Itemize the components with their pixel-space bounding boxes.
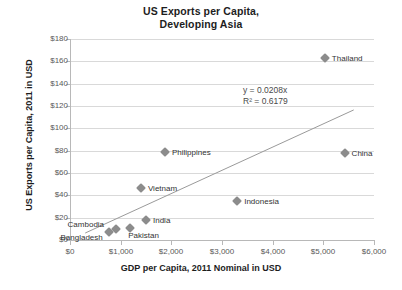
data-point-label-china: China [352, 149, 373, 158]
x-tick-label: $2,000 [159, 248, 183, 256]
x-tick-label: $5,000 [311, 248, 335, 256]
data-point-label-vietnam: Vietnam [148, 184, 177, 193]
x-tick-mark [222, 241, 223, 245]
trendline-r-squared: R² = 0.6179 [243, 96, 288, 107]
gridline-horizontal [70, 128, 374, 129]
x-tick-label: $4,000 [261, 248, 285, 256]
y-tick-label: $180 [50, 35, 68, 43]
data-point-label-india: India [153, 216, 170, 225]
data-point-label-bangladesh: Bangladesh [61, 233, 103, 242]
y-tick-label: $100 [50, 124, 68, 132]
gridline-horizontal [70, 173, 374, 174]
trendline-svg [0, 0, 402, 290]
x-axis-title: GDP per Capita, 2011 Nominal in USD [0, 263, 402, 273]
y-tick-label: $20 [55, 214, 68, 222]
x-tick-mark [121, 241, 122, 245]
data-point-vietnam [136, 183, 146, 193]
x-tick-mark [323, 241, 324, 245]
gridline-horizontal [70, 195, 374, 196]
trendline-equation: y = 0.0208x [243, 85, 287, 96]
data-point-china [340, 148, 350, 158]
gridline-horizontal [70, 151, 374, 152]
x-tick-label: $6,000 [362, 248, 386, 256]
chart-title-line-2: Developing Asia [0, 18, 402, 31]
data-point-philippines [160, 147, 170, 157]
x-axis-line [70, 240, 375, 241]
x-tick-mark [374, 241, 375, 245]
x-tick-mark [171, 241, 172, 245]
data-point-label-philippines: Philippines [172, 148, 211, 157]
data-point-label-thailand: Thailand [332, 54, 363, 63]
y-tick-label: $40 [55, 191, 68, 199]
x-tick-label: $0 [66, 248, 75, 256]
y-tick-label: $60 [55, 169, 68, 177]
y-tick-label: $120 [50, 102, 68, 110]
gridline-horizontal [70, 39, 374, 40]
data-point-label-pakistan: Pakistan [128, 231, 159, 240]
chart-title: US Exports per Capita, Developing Asia [0, 5, 402, 30]
y-axis-line [70, 39, 71, 241]
data-point-label-indonesia: Indonesia [244, 197, 279, 206]
gridline-horizontal [70, 84, 374, 85]
x-tick-label: $1,000 [109, 248, 133, 256]
data-point-india [141, 215, 151, 225]
x-tick-label: $3,000 [210, 248, 234, 256]
chart-title-line-1: US Exports per Capita, [0, 5, 402, 18]
gridline-horizontal [70, 106, 374, 107]
data-point-label-cambodia: Cambodia [68, 220, 104, 229]
scatter-chart: US Exports per Capita, Developing Asia U… [0, 0, 402, 290]
x-tick-mark [273, 241, 274, 245]
y-tick-label: $160 [50, 57, 68, 65]
gridline-horizontal [70, 61, 374, 62]
y-axis-title: US Exports per Capita, 2011 in USD [24, 40, 34, 230]
y-tick-label: $80 [55, 147, 68, 155]
gridline-horizontal [70, 218, 374, 219]
y-tick-label: $140 [50, 80, 68, 88]
data-point-indonesia [232, 196, 242, 206]
